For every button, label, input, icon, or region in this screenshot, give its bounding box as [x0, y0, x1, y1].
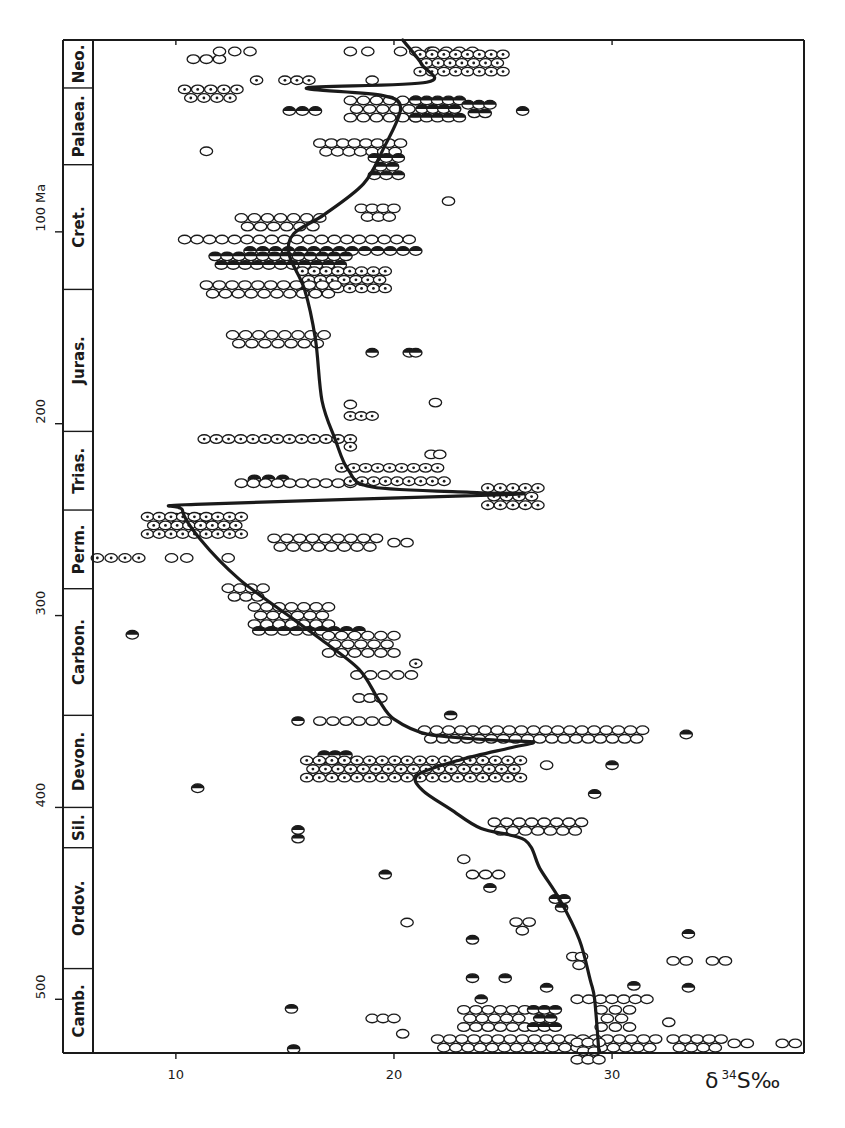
sample-point: [498, 1043, 510, 1052]
sample-point: [367, 284, 379, 293]
sample-point: [522, 1043, 534, 1052]
sample-marker-center: [313, 270, 316, 273]
sample-marker-center: [193, 515, 196, 518]
sample-point: [558, 735, 570, 744]
sample-marker: [538, 818, 550, 827]
sample-marker: [239, 281, 251, 290]
sample-point: [479, 726, 491, 735]
sample-marker: [434, 450, 446, 459]
sample-point: [623, 1023, 635, 1032]
sample-marker: [649, 1035, 661, 1044]
sample-point: [344, 47, 356, 56]
sample-marker-center: [437, 62, 440, 65]
sample-point: [327, 717, 339, 726]
sample-marker: [254, 611, 266, 620]
sample-marker: [388, 1014, 400, 1023]
sample-marker: [353, 717, 365, 726]
sample-marker-center: [502, 53, 505, 56]
sample-marker-center: [360, 287, 363, 290]
sample-point: [375, 649, 387, 658]
sample-marker-center: [444, 776, 447, 779]
sample-point: [563, 818, 575, 827]
sample-marker: [606, 735, 618, 744]
sample-marker: [458, 1006, 470, 1015]
sample-marker: [667, 1035, 679, 1044]
sample-marker: [600, 726, 612, 735]
sample-point: [389, 773, 401, 782]
sample-marker-center: [356, 759, 359, 762]
sample-point: [248, 214, 260, 223]
sample-point: [267, 611, 279, 620]
sample-point: [458, 855, 470, 864]
sample-point: [507, 484, 519, 493]
sample-point: [355, 640, 367, 649]
sample-marker: [573, 961, 585, 970]
sample-marker-center: [506, 759, 509, 762]
sample-point: [290, 627, 302, 636]
sample-marker: [200, 147, 212, 156]
sample-marker-center: [205, 515, 208, 518]
sample-marker-center: [300, 438, 303, 441]
sample-point: [239, 281, 251, 290]
sample-point: [470, 1023, 482, 1032]
sample-point: [449, 105, 461, 114]
sample-point: [516, 926, 528, 935]
sample-point: [213, 47, 225, 56]
sample-marker: [310, 603, 322, 612]
sample-point: [575, 818, 587, 827]
sample-marker: [266, 331, 278, 340]
sample-point: [338, 543, 350, 552]
sample-marker: [515, 726, 527, 735]
sample-marker-center: [478, 53, 481, 56]
sample-marker: [625, 1035, 637, 1044]
sample-point: [332, 479, 344, 488]
age-curve-layer: [168, 40, 599, 1053]
period-column: Neo.Palaea.Cret.Juras.Trias.Perm.Carbon.…: [63, 45, 93, 1038]
sample-point: [303, 235, 315, 244]
sample-marker-center: [466, 53, 469, 56]
sample-point: [570, 735, 582, 744]
sample-point: [410, 348, 422, 357]
sample-marker: [394, 139, 406, 148]
sample-marker-center: [374, 768, 377, 771]
sample-marker: [360, 139, 372, 148]
sample-point: [279, 76, 291, 85]
sample-marker: [370, 113, 382, 122]
sample-point: [376, 773, 388, 782]
sample-point: [284, 289, 296, 298]
sample-point: [247, 435, 259, 444]
period-label: Carbon.: [70, 619, 88, 685]
sample-point: [569, 827, 581, 836]
sample-marker-center: [189, 97, 192, 100]
sample-marker: [344, 96, 356, 105]
sample-point: [313, 773, 325, 782]
sample-marker: [535, 1043, 547, 1052]
sample-point: [539, 726, 551, 735]
sample-point: [292, 717, 304, 726]
sample-point: [257, 584, 269, 593]
sample-marker-center: [381, 776, 384, 779]
sample-marker: [320, 147, 332, 156]
sample-marker: [366, 76, 378, 85]
sample-point: [250, 76, 262, 85]
sample-point: [153, 512, 165, 521]
sample-marker: [615, 1014, 627, 1023]
x-axis-label-unit: ‰: [751, 1068, 781, 1093]
sample-point: [363, 773, 375, 782]
sample-marker: [342, 640, 354, 649]
sample-point: [325, 139, 337, 148]
sample-marker: [401, 918, 413, 927]
sample-marker: [378, 235, 390, 244]
sample-marker-center: [408, 480, 411, 483]
sample-marker: [392, 671, 404, 680]
sample-point: [438, 1043, 450, 1052]
sample-point: [258, 289, 270, 298]
sample-point: [251, 261, 263, 270]
sample-point: [244, 47, 256, 56]
sample-marker-center: [454, 70, 457, 73]
sample-point: [606, 995, 618, 1004]
sample-marker-center: [211, 524, 214, 527]
sample-marker: [703, 1035, 715, 1044]
sample-point: [332, 765, 344, 774]
sample-marker: [396, 1030, 408, 1039]
